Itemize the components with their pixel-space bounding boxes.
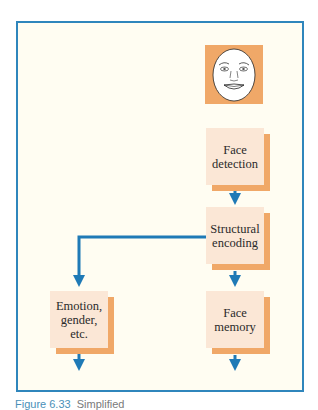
node-label: gender,: [61, 313, 98, 327]
node-label: encoding: [212, 236, 258, 250]
node-face-detection: Facedetection: [206, 128, 264, 185]
caption-text: Simplified: [77, 398, 125, 410]
figure-label: Figure 6.33: [15, 398, 71, 410]
node-label: Structural: [210, 222, 259, 236]
figure-caption: Figure 6.33 Simplified: [15, 398, 124, 410]
node-label: Face: [223, 306, 247, 320]
node-label: Face: [223, 143, 247, 157]
node-label: Emotion,: [56, 299, 102, 313]
node-structural-encoding: Structuralencoding: [206, 207, 264, 264]
node-label: memory: [214, 320, 256, 334]
node-label: etc.: [70, 327, 88, 341]
node-label: detection: [212, 157, 258, 171]
node-emotion-gender: Emotion,gender,etc.: [50, 291, 108, 348]
node-face-memory: Facememory: [206, 291, 264, 348]
